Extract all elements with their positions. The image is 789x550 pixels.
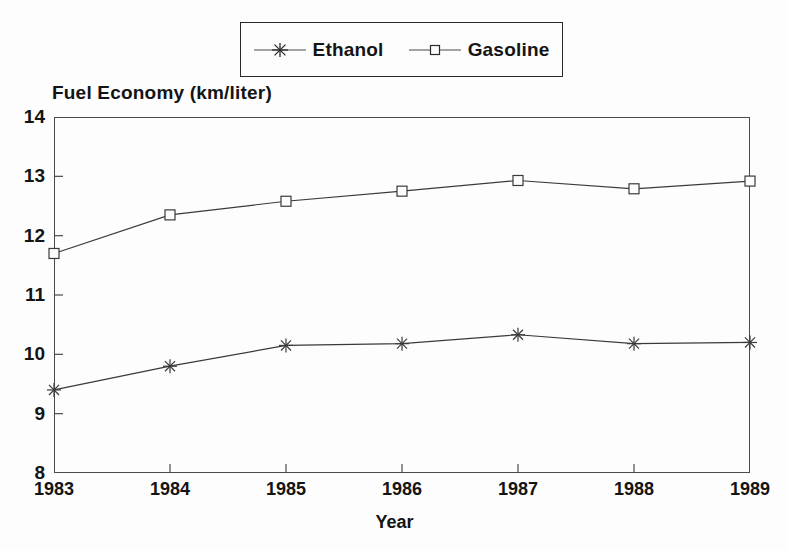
y-tick-label: 11 (5, 284, 45, 306)
x-tick-label: 1984 (125, 479, 215, 500)
x-tick-label: 1986 (357, 479, 447, 500)
x-tick-label: 1985 (241, 479, 331, 500)
y-tick-label: 10 (5, 343, 45, 365)
y-tick-label: 13 (5, 165, 45, 187)
y-tick-label: 9 (5, 403, 45, 425)
plot-svg (0, 0, 789, 550)
x-axis-ticks (170, 464, 634, 473)
series-gasoline (49, 175, 755, 258)
x-axis-title: Year (0, 512, 789, 533)
x-tick-label: 1983 (9, 479, 99, 500)
y-tick-label: 14 (5, 106, 45, 128)
x-tick-label: 1987 (473, 479, 563, 500)
y-tick-label: 12 (5, 225, 45, 247)
y-axis-ticks (54, 176, 63, 413)
series-ethanol (47, 328, 757, 397)
x-tick-label: 1988 (589, 479, 679, 500)
data-series-layer (47, 175, 757, 396)
x-tick-label: 1989 (705, 479, 789, 500)
fuel-economy-line-chart: Ethanol Gasoline Fuel Economy (km/liter)… (0, 0, 789, 550)
